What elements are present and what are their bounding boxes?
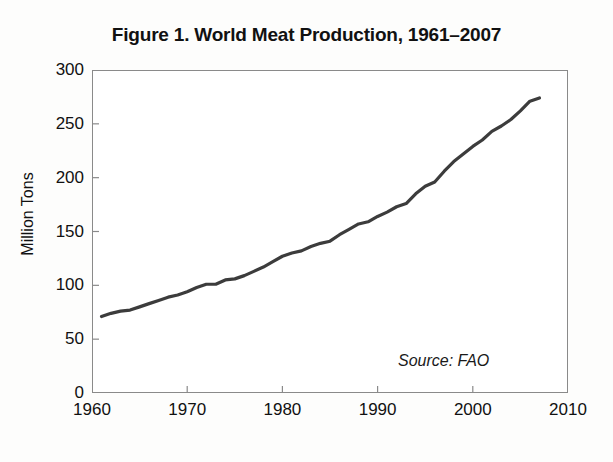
y-tick-label: 150 (38, 222, 84, 242)
x-tick-label: 1970 (152, 400, 222, 420)
x-tick-label: 1990 (343, 400, 413, 420)
chart-canvas (0, 0, 613, 462)
x-tick-label: 1980 (247, 400, 317, 420)
y-tick-label: 200 (38, 168, 84, 188)
figure-container: Figure 1. World Meat Production, 1961–20… (0, 0, 613, 462)
x-tick-label: 1960 (57, 400, 127, 420)
y-tick-label: 300 (38, 60, 84, 80)
y-tick-label: 100 (38, 275, 84, 295)
source-note: Source: FAO (398, 352, 489, 370)
x-tick-label: 2000 (438, 400, 508, 420)
y-axis-tick-labels: 050100150200250300 (32, 0, 84, 462)
x-tick-label: 2010 (533, 400, 603, 420)
y-tick-label: 50 (38, 329, 84, 349)
y-axis-title: Million Tons (19, 134, 37, 294)
data-series-line (102, 98, 540, 317)
y-tick-label: 250 (38, 114, 84, 134)
